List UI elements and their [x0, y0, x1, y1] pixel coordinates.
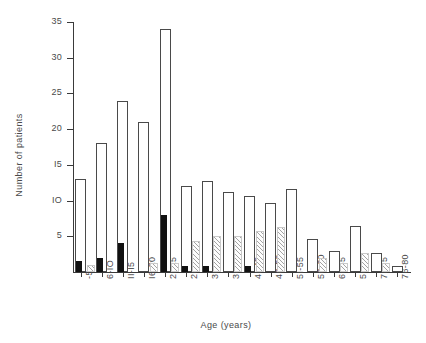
bar-total	[392, 266, 403, 272]
y-tick-label: 35	[36, 17, 62, 26]
x-tick-mark	[250, 272, 251, 277]
x-tick-mark	[228, 272, 229, 277]
x-tick-mark	[397, 272, 398, 277]
y-tick-mark	[67, 236, 74, 237]
y-tick-label: 20	[36, 124, 62, 133]
y-tick-mark	[67, 165, 74, 166]
bar-hatched	[256, 231, 264, 272]
x-tick-mark	[271, 272, 272, 277]
y-tick-mark	[67, 58, 74, 59]
bar-total	[75, 179, 86, 272]
y-tick-mark	[67, 93, 74, 94]
bar-hatched	[319, 258, 327, 272]
bar-hatched	[361, 253, 369, 272]
x-tick-label: 6-IO	[106, 260, 115, 279]
bar-solid	[118, 243, 124, 272]
bar-hatched	[234, 236, 242, 272]
bar-total	[96, 143, 107, 272]
bar-total	[350, 226, 361, 272]
x-tick-mark	[313, 272, 314, 277]
bar-total	[138, 122, 149, 272]
x-tick-mark	[292, 272, 293, 277]
x-axis-title: Age (years)	[166, 320, 286, 330]
x-tick-mark	[81, 272, 82, 277]
bar-hatched	[171, 263, 179, 272]
bar-total	[223, 192, 234, 272]
bar-solid	[245, 266, 251, 272]
x-tick-mark	[376, 272, 377, 277]
y-tick-label: 25	[36, 88, 62, 97]
y-tick-label: IO	[36, 196, 62, 205]
bar-total	[371, 253, 382, 272]
y-axis-line	[73, 22, 74, 272]
x-tick-label: II-I5	[127, 261, 136, 279]
bar-solid	[203, 266, 209, 272]
bar-hatched	[340, 263, 348, 272]
bar-total	[265, 203, 276, 272]
y-tick-mark	[67, 129, 74, 130]
x-tick-mark	[144, 272, 145, 277]
x-tick-mark	[123, 272, 124, 277]
y-tick-label: 5	[36, 231, 62, 240]
y-axis-title: Number of patients	[14, 95, 24, 215]
bar-total	[307, 239, 318, 272]
bar-solid	[97, 258, 103, 272]
bar-hatched	[382, 263, 390, 272]
y-tick-mark	[67, 201, 74, 202]
x-tick-mark	[186, 272, 187, 277]
y-tick-label: 30	[36, 53, 62, 62]
bar-total	[286, 189, 297, 272]
bar-hatched	[213, 236, 221, 272]
bar-hatched	[277, 227, 285, 272]
y-tick-mark	[67, 22, 74, 23]
x-tick-mark	[102, 272, 103, 277]
x-tick-mark	[355, 272, 356, 277]
y-tick-label: I5	[36, 160, 62, 169]
bar-solid	[182, 266, 188, 272]
x-tick-mark	[165, 272, 166, 277]
bar-hatched	[150, 263, 158, 272]
bar-total	[329, 251, 340, 272]
bar-total	[244, 196, 255, 272]
bar-total	[202, 181, 213, 272]
x-tick-mark	[334, 272, 335, 277]
bar-chart: Number of patients 5IOI520253035 -56-IOI…	[0, 0, 426, 343]
x-tick-mark	[207, 272, 208, 277]
bar-solid	[76, 261, 82, 272]
bar-hatched	[87, 265, 95, 272]
bar-total	[181, 186, 192, 272]
bar-hatched	[192, 241, 200, 272]
x-tick-label: 5I-55	[296, 256, 305, 279]
bar-solid	[161, 215, 167, 272]
